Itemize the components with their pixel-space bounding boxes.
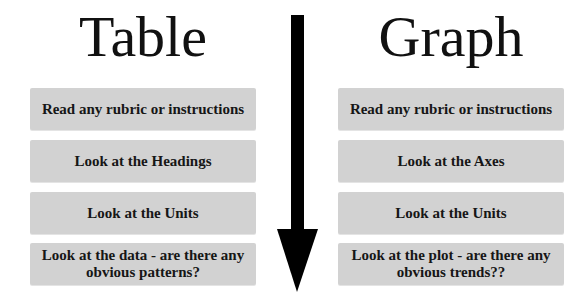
step-label: Look at the Headings [74, 153, 211, 170]
step-label: Look at the plot - are there any obvious… [344, 247, 558, 281]
graph-step-plot-trends: Look at the plot - are there any obvious… [338, 243, 564, 285]
table-step-headings: Look at the Headings [30, 140, 256, 182]
table-column-title: Table [23, 4, 263, 70]
step-label: Look at the Units [87, 205, 198, 222]
graph-step-axes: Look at the Axes [338, 140, 564, 182]
step-label: Read any rubric or instructions [350, 101, 552, 118]
step-label: Look at the Units [395, 205, 506, 222]
table-step-read-rubric: Read any rubric or instructions [30, 88, 256, 130]
graph-step-units: Look at the Units [338, 192, 564, 234]
step-label: Look at the Axes [397, 153, 504, 170]
step-label: Read any rubric or instructions [42, 101, 244, 118]
arrow-head [277, 229, 318, 292]
graph-column-title: Graph [331, 4, 571, 70]
step-label: Look at the data - are there any obvious… [36, 247, 250, 281]
arrow-shaft [291, 15, 304, 231]
table-step-units: Look at the Units [30, 192, 256, 234]
table-step-data-patterns: Look at the data - are there any obvious… [30, 243, 256, 285]
graph-step-read-rubric: Read any rubric or instructions [338, 88, 564, 130]
